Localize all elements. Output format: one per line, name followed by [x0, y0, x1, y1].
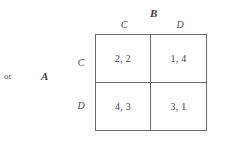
column-player-label-b: B	[150, 8, 157, 19]
cell-c-c: 2, 2	[96, 35, 151, 83]
leading-text-or: or	[4, 72, 12, 81]
row-header-c: C	[72, 58, 90, 68]
cell-d-d: 3, 1	[151, 83, 206, 131]
payoff-matrix-figure: or A B C D C D 2, 2 1, 4 4, 3 3, 1	[0, 0, 225, 146]
column-header-d: D	[152, 20, 208, 30]
row-header-d: D	[72, 101, 90, 111]
cell-d-c: 4, 3	[96, 83, 151, 131]
cell-c-d: 1, 4	[151, 35, 206, 83]
column-header-c: C	[96, 20, 152, 30]
row-player-label-a: A	[41, 71, 48, 82]
matrix-grid: 2, 2 1, 4 4, 3 3, 1	[95, 34, 207, 131]
